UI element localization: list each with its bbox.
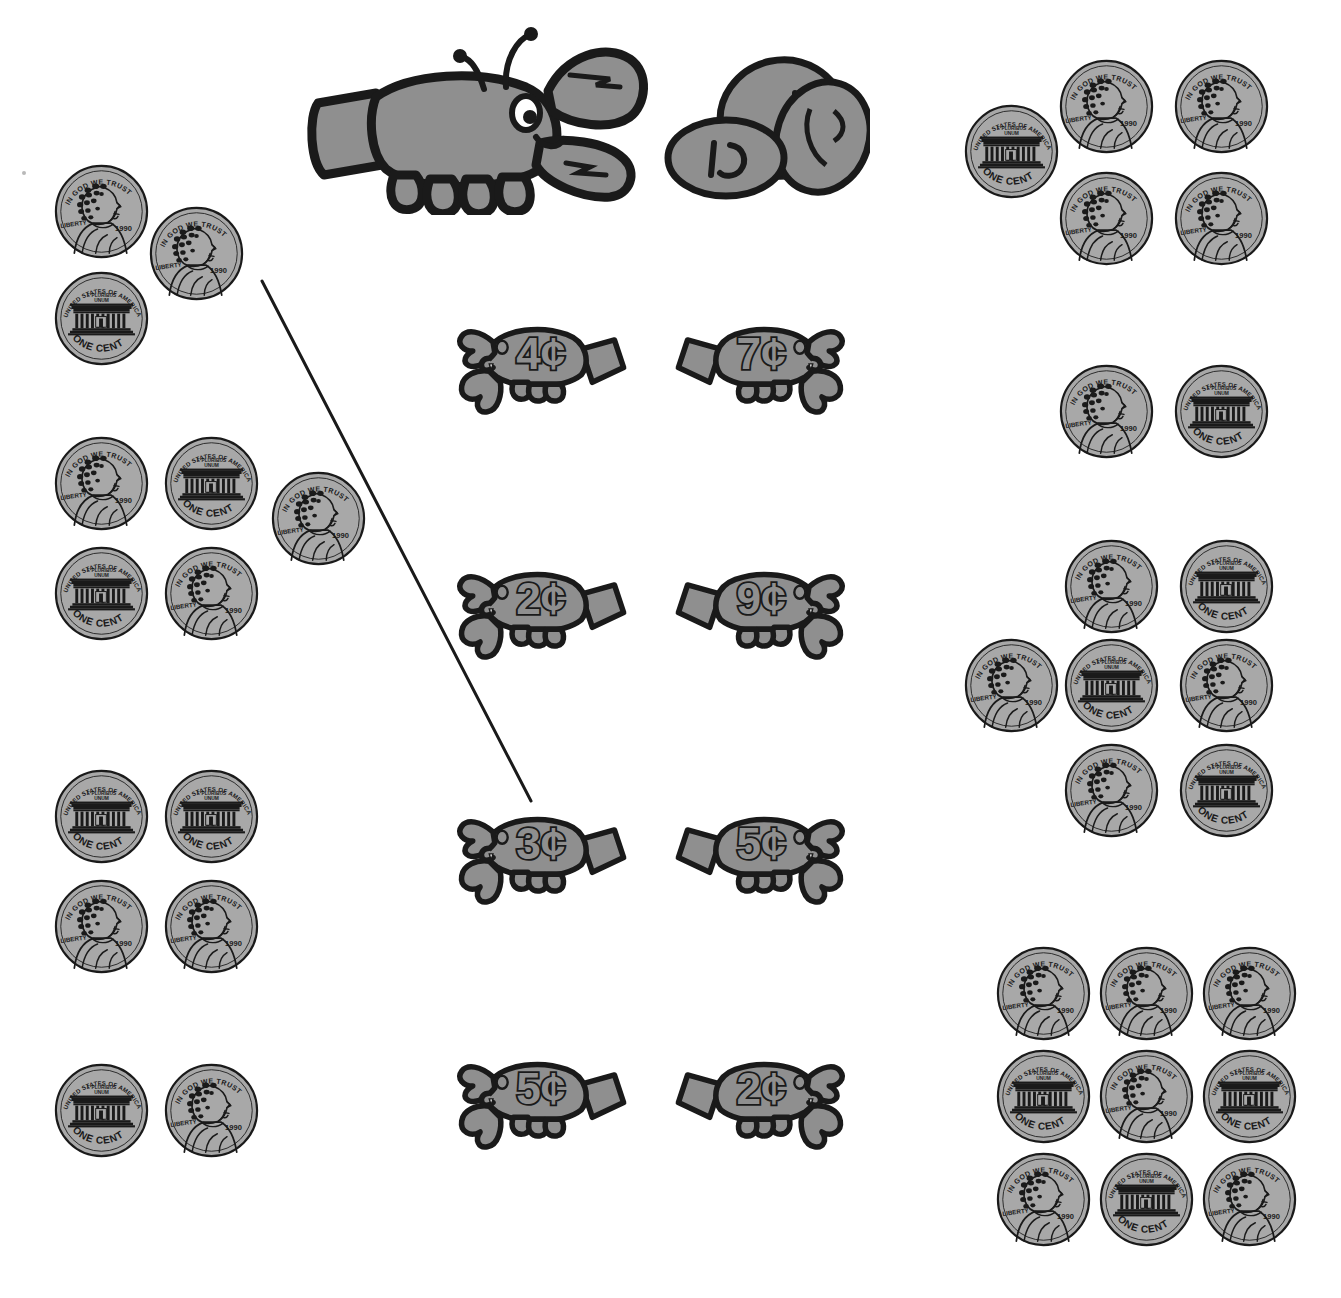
penny-heads[interactable] <box>1063 742 1160 839</box>
penny-heads[interactable] <box>163 1062 260 1159</box>
penny-tails[interactable] <box>1063 637 1160 734</box>
penny-heads[interactable] <box>163 878 260 975</box>
lobster-shape: 7¢ <box>665 305 850 420</box>
price-lobster-5cents[interactable]: 5¢ <box>665 795 850 910</box>
penny-tails[interactable] <box>163 768 260 865</box>
price-lobster-7cents[interactable]: 7¢ <box>665 305 850 420</box>
penny-heads[interactable] <box>1173 170 1270 267</box>
penny-heads[interactable] <box>53 163 150 260</box>
penny-heads[interactable] <box>995 1151 1092 1248</box>
price-lobster-2cents[interactable]: 2¢ <box>665 1040 850 1155</box>
penny-heads[interactable] <box>995 945 1092 1042</box>
header-coin-lower <box>668 120 784 196</box>
lobster-price-label: 9¢ <box>737 574 786 623</box>
penny-tails[interactable] <box>53 1062 150 1159</box>
penny-heads[interactable] <box>1058 363 1155 460</box>
price-lobster-4cents[interactable]: 4¢ <box>452 305 637 420</box>
penny-tails[interactable] <box>53 545 150 642</box>
lobster-price-label: 7¢ <box>737 329 786 378</box>
penny-tails[interactable] <box>53 270 150 367</box>
lobster-shape: 5¢ <box>452 1040 637 1155</box>
penny-heads[interactable] <box>1178 637 1275 734</box>
penny-tails[interactable] <box>995 1048 1092 1145</box>
penny-heads[interactable] <box>148 205 245 302</box>
lobster-shape: 3¢ <box>452 795 637 910</box>
price-lobster-2cents[interactable]: 2¢ <box>452 550 637 665</box>
penny-heads[interactable] <box>53 878 150 975</box>
lobster-price-label: 2¢ <box>516 574 565 623</box>
penny-heads[interactable] <box>163 545 260 642</box>
penny-heads[interactable] <box>963 637 1060 734</box>
penny-tails[interactable] <box>1098 1151 1195 1248</box>
lobster-with-coins-illustration <box>290 25 870 215</box>
price-lobster-5cents[interactable]: 5¢ <box>452 1040 637 1155</box>
lobster-shape: 5¢ <box>665 795 850 910</box>
header-lobster-svg <box>290 25 870 215</box>
price-lobster-3cents[interactable]: 3¢ <box>452 795 637 910</box>
penny-tails[interactable] <box>1178 742 1275 839</box>
price-lobster-9cents[interactable]: 9¢ <box>665 550 850 665</box>
penny-tails[interactable] <box>1173 363 1270 460</box>
penny-heads[interactable] <box>1098 945 1195 1042</box>
lobster-shape: 2¢ <box>665 1040 850 1155</box>
penny-tails[interactable] <box>53 768 150 865</box>
penny-tails[interactable] <box>963 103 1060 200</box>
lobster-shape: 4¢ <box>452 305 637 420</box>
worksheet-page: IN GOD WE TRUST LIBERTY 1990 <box>0 0 1341 1298</box>
penny-heads[interactable] <box>1173 58 1270 155</box>
lobster-shape: 9¢ <box>665 550 850 665</box>
lobster-price-label: 3¢ <box>516 819 565 868</box>
lobster-shape: 2¢ <box>452 550 637 665</box>
lobster-price-label: 5¢ <box>516 1064 565 1113</box>
penny-heads[interactable] <box>1201 945 1298 1042</box>
lobster-price-label: 2¢ <box>737 1064 786 1113</box>
penny-tails[interactable] <box>1178 538 1275 635</box>
penny-heads[interactable] <box>1063 538 1160 635</box>
penny-heads[interactable] <box>1201 1151 1298 1248</box>
lobster-price-label: 5¢ <box>737 819 786 868</box>
penny-heads[interactable] <box>270 470 367 567</box>
header-eye <box>512 96 540 130</box>
penny-tails[interactable] <box>1201 1048 1298 1145</box>
penny-heads[interactable] <box>1098 1048 1195 1145</box>
penny-heads[interactable] <box>53 435 150 532</box>
penny-heads[interactable] <box>1058 170 1155 267</box>
penny-heads[interactable] <box>1058 58 1155 155</box>
lobster-price-label: 4¢ <box>516 329 565 378</box>
stray-dot <box>22 171 26 175</box>
penny-tails[interactable] <box>163 435 260 532</box>
